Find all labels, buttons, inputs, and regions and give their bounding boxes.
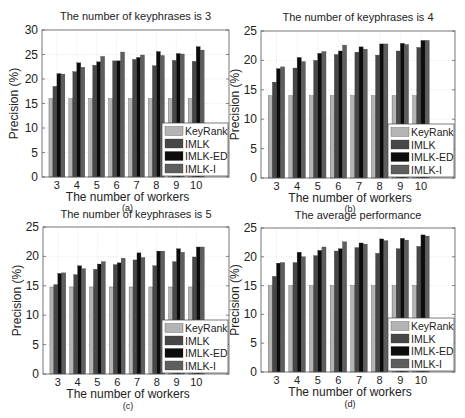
chart-b: 0510152025345678910The number of keyphra… bbox=[228, 11, 455, 214]
bar-imlk bbox=[74, 275, 78, 374]
bar-imlk-i bbox=[343, 242, 347, 372]
bar-imlk-i bbox=[82, 269, 86, 374]
bar-imlk-ed bbox=[117, 263, 121, 374]
legend-label: IMLK-I bbox=[411, 164, 442, 176]
bar-imlk-ed bbox=[136, 57, 140, 177]
legend-swatch-imlk bbox=[391, 140, 409, 149]
bar-keyrank bbox=[371, 286, 375, 372]
legend-label: KeyRank bbox=[411, 320, 454, 332]
legend-label: IMLK-ED bbox=[185, 150, 228, 162]
legend-label: KeyRank bbox=[185, 125, 228, 137]
legend-swatch-imlk bbox=[391, 334, 409, 343]
bar-imlk bbox=[293, 68, 297, 178]
figure-grid: 051015202530345678910The number of keyph… bbox=[0, 0, 465, 418]
y-axis-label: Precision (%) bbox=[10, 265, 24, 336]
legend-swatch-keyrank bbox=[391, 128, 409, 137]
x-tick-label: 10 bbox=[415, 374, 427, 386]
bar-imlk-ed bbox=[78, 266, 82, 374]
bar-imlk bbox=[355, 248, 359, 372]
bar-imlk-ed bbox=[97, 264, 101, 374]
legend-swatch-imlk-ed bbox=[391, 153, 409, 162]
bar-imlk-i bbox=[62, 273, 66, 374]
legend: KeyRankIMLKIMLK-EDIMLK-I bbox=[162, 320, 228, 373]
bar-imlk-i bbox=[363, 244, 367, 372]
bar-imlk-i bbox=[81, 67, 85, 177]
bar-keyrank bbox=[49, 99, 53, 177]
y-tick-label: 0 bbox=[32, 367, 39, 381]
y-tick-label: 0 bbox=[31, 170, 38, 184]
legend-swatch-imlk-i bbox=[165, 164, 183, 173]
bar-imlk-i bbox=[101, 262, 105, 374]
bar-imlk-i bbox=[384, 44, 388, 178]
legend-label: IMLK-ED bbox=[411, 151, 454, 163]
legend-swatch-keyrank bbox=[165, 127, 183, 136]
y-tick-label: 25 bbox=[244, 221, 258, 235]
bar-imlk bbox=[334, 251, 338, 372]
bar-imlk bbox=[54, 285, 58, 374]
bar-keyrank bbox=[109, 287, 113, 374]
chart-title: The number of keyphrases is 5 bbox=[60, 208, 211, 220]
bar-imlk-ed bbox=[276, 69, 280, 178]
x-tick-label: 3 bbox=[54, 179, 60, 191]
bar-imlk bbox=[73, 72, 77, 177]
legend-swatch-imlk-i bbox=[391, 359, 409, 368]
bar-imlk-ed bbox=[318, 53, 322, 178]
legend-label: KeyRank bbox=[185, 322, 228, 334]
legend-label: IMLK-ED bbox=[411, 345, 454, 357]
bar-imlk-ed bbox=[338, 51, 342, 178]
legend-label: KeyRank bbox=[411, 126, 454, 138]
bar-keyrank bbox=[89, 99, 93, 177]
bar-keyrank bbox=[289, 286, 293, 372]
legend-swatch-imlk-ed bbox=[165, 349, 183, 358]
bar-imlk bbox=[272, 276, 276, 372]
bar-imlk-ed bbox=[359, 47, 363, 178]
bar-imlk-i bbox=[343, 45, 347, 178]
y-tick-label: 5 bbox=[250, 336, 257, 350]
legend-label: IMLK-ED bbox=[185, 347, 228, 359]
bar-keyrank bbox=[310, 286, 314, 372]
bar-imlk-ed bbox=[297, 252, 301, 372]
bar-imlk bbox=[93, 269, 97, 374]
bar-imlk bbox=[272, 82, 276, 178]
x-tick-label: 3 bbox=[55, 376, 61, 388]
bar-imlk bbox=[376, 253, 380, 372]
bar-keyrank bbox=[129, 99, 133, 177]
bar-imlk-ed bbox=[318, 250, 322, 372]
legend-swatch-imlk-i bbox=[165, 361, 183, 370]
legend-label: IMLK-I bbox=[185, 163, 216, 175]
bar-imlk-ed bbox=[380, 44, 384, 178]
bar-imlk-i bbox=[301, 62, 305, 178]
bar-keyrank bbox=[149, 287, 153, 374]
y-tick-label: 15 bbox=[25, 97, 39, 111]
bar-imlk bbox=[133, 59, 137, 177]
legend-swatch-keyrank bbox=[165, 324, 183, 333]
subfigure-caption: (c) bbox=[123, 401, 134, 411]
bar-keyrank bbox=[351, 286, 355, 372]
bar-imlk-ed bbox=[297, 57, 301, 178]
bar-imlk-i bbox=[384, 241, 388, 372]
subfigure-caption: (d) bbox=[345, 399, 356, 409]
legend-label: IMLK-I bbox=[411, 358, 442, 370]
x-axis-label: The number of workers bbox=[66, 387, 189, 401]
y-axis-label: Precision (%) bbox=[228, 264, 242, 335]
bar-imlk-i bbox=[281, 263, 285, 372]
y-tick-label: 10 bbox=[25, 121, 39, 135]
bar-imlk bbox=[93, 65, 97, 177]
legend-label: IMLK bbox=[185, 138, 210, 150]
chart-title: The average performance bbox=[295, 209, 422, 221]
legend: KeyRankIMLKIMLK-EDIMLK-I bbox=[388, 318, 454, 371]
x-tick-label: 3 bbox=[273, 374, 279, 386]
figure-svg: 051015202530345678910The number of keyph… bbox=[0, 0, 465, 418]
bar-imlk-i bbox=[322, 52, 326, 178]
bar-keyrank bbox=[109, 99, 113, 177]
bar-imlk bbox=[314, 256, 318, 372]
y-tick-label: 30 bbox=[25, 23, 39, 37]
bar-imlk-ed bbox=[137, 253, 141, 374]
y-tick-label: 0 bbox=[250, 171, 257, 185]
bar-imlk-i bbox=[363, 49, 367, 178]
bar-imlk bbox=[153, 266, 157, 374]
bar-imlk-ed bbox=[58, 273, 62, 374]
x-tick-label: 10 bbox=[190, 376, 202, 388]
y-tick-label: 5 bbox=[250, 142, 257, 156]
legend-label: IMLK bbox=[185, 335, 210, 347]
